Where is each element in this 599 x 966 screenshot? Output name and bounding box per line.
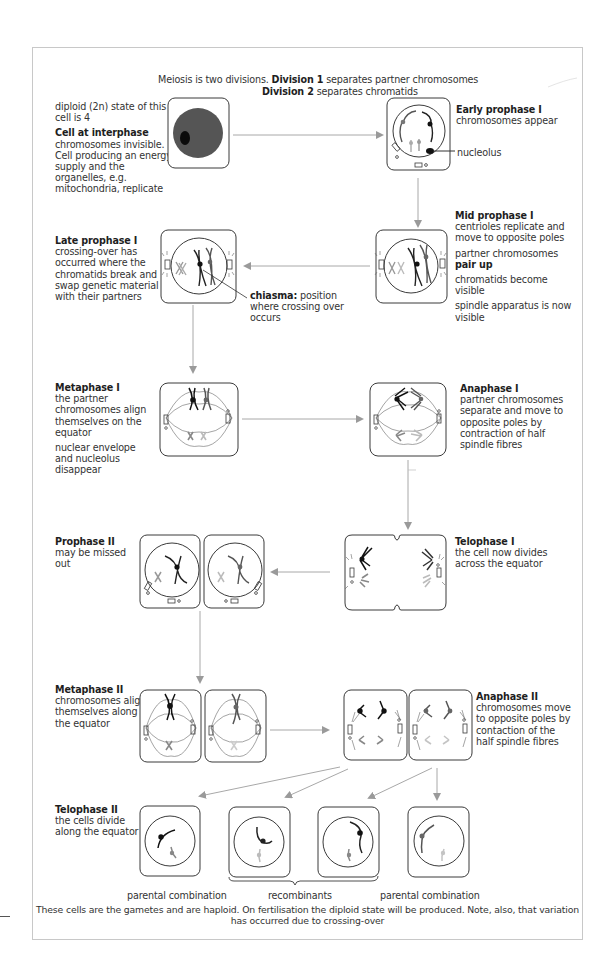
cell-late-prophase-1 [161, 230, 247, 303]
cell-interphase [168, 98, 229, 168]
nucleolus-icon [180, 131, 190, 145]
cell-metaphase-2-left [140, 690, 201, 762]
gamete-cell-2 [229, 807, 290, 877]
cell-anaphase-1 [370, 383, 446, 470]
cell-metaphase-2-right [205, 690, 266, 762]
cell-anaphase-2-left [344, 690, 407, 760]
cell-mid-prophase-1 [375, 230, 447, 303]
arrow-gamete-3 [369, 768, 432, 798]
stray-mark [548, 78, 577, 87]
cell-prophase-2-left [140, 535, 200, 608]
gamete-cell-3 [318, 807, 379, 877]
cell-anaphase-2-right [409, 690, 472, 760]
cell-prophase-2-right [204, 535, 264, 608]
arrow-gamete-2 [286, 769, 348, 797]
gamete-cell-1 [140, 806, 200, 876]
cell-telophase-1 [345, 535, 446, 610]
cell-early-prophase-1 [387, 98, 455, 170]
gamete-cell-4 [408, 807, 469, 877]
arrow-gamete-1 [200, 767, 340, 796]
meiosis-artwork [0, 0, 599, 966]
cell-metaphase-1 [160, 383, 238, 456]
